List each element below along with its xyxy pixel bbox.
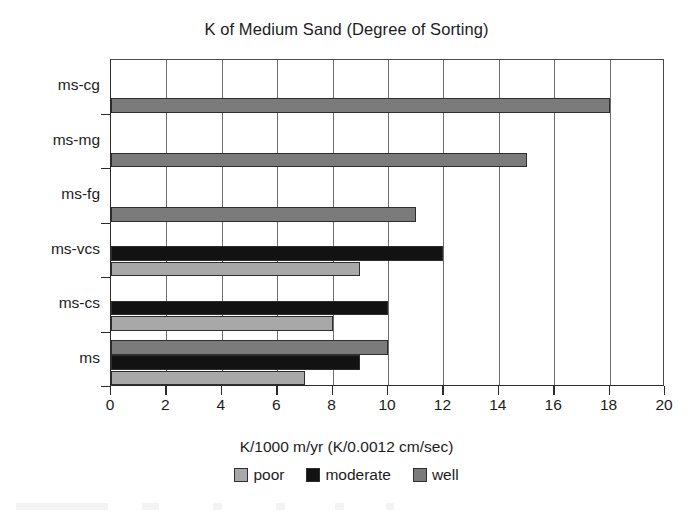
- x-tick-20: [664, 386, 665, 395]
- x-tick-16: [553, 386, 554, 395]
- gridline-18: [610, 60, 611, 385]
- y-tick-5: [101, 332, 110, 333]
- x-axis-label-14: 14: [489, 396, 506, 414]
- x-axis-label-20: 20: [655, 396, 672, 414]
- x-axis-title: K/1000 m/yr (K/0.0012 cm/sec): [0, 438, 693, 456]
- bar-ms-well: [111, 340, 388, 355]
- y-tick-6: [101, 386, 110, 387]
- scan-artifact: [16, 503, 436, 510]
- x-axis-label-16: 16: [545, 396, 562, 414]
- x-tick-8: [332, 386, 333, 395]
- x-tick-12: [442, 386, 443, 395]
- bar-ms-moderate: [111, 355, 360, 370]
- x-axis-label-0: 0: [106, 396, 115, 414]
- x-axis-label-6: 6: [272, 396, 281, 414]
- y-tick-3: [101, 223, 110, 224]
- bar-ms-mg-well: [111, 153, 527, 168]
- chart-title: K of Medium Sand (Degree of Sorting): [0, 20, 693, 39]
- legend-entry-moderate[interactable]: moderate: [306, 466, 390, 484]
- x-tick-10: [387, 386, 388, 395]
- x-axis-label-4: 4: [216, 396, 225, 414]
- x-tick-14: [498, 386, 499, 395]
- legend-label-poor: poor: [253, 466, 284, 484]
- x-tick-4: [221, 386, 222, 395]
- bar-ms-poor: [111, 371, 305, 386]
- y-tick-4: [101, 277, 110, 278]
- y-axis-label-ms-mg: ms-mg: [4, 131, 100, 149]
- bar-ms-vcs-moderate: [111, 246, 443, 261]
- x-tick-18: [609, 386, 610, 395]
- bar-ms-fg-well: [111, 207, 416, 222]
- bar-ms-cs-moderate: [111, 301, 388, 316]
- chart-legend: poormoderatewell: [0, 466, 693, 484]
- y-axis-label-ms-fg: ms-fg: [4, 185, 100, 203]
- bar-ms-cg-well: [111, 98, 610, 113]
- y-tick-1: [101, 114, 110, 115]
- y-axis-label-ms-cg: ms-cg: [4, 76, 100, 94]
- legend-swatch-poor: [234, 468, 248, 482]
- legend-entry-poor[interactable]: poor: [234, 466, 284, 484]
- y-axis-label-ms: ms: [4, 349, 100, 367]
- legend-swatch-well: [413, 468, 427, 482]
- legend-label-moderate: moderate: [325, 466, 390, 484]
- y-tick-2: [101, 168, 110, 169]
- plot-area: [110, 59, 664, 386]
- x-axis-label-2: 2: [161, 396, 170, 414]
- y-axis-label-ms-cs: ms-cs: [4, 294, 100, 312]
- legend-label-well: well: [432, 466, 459, 484]
- legend-entry-well[interactable]: well: [413, 466, 459, 484]
- legend-swatch-moderate: [306, 468, 320, 482]
- x-tick-6: [276, 386, 277, 395]
- bar-ms-vcs-poor: [111, 262, 360, 277]
- x-axis-label-12: 12: [434, 396, 451, 414]
- chart-figure: K of Medium Sand (Degree of Sorting) ms-…: [0, 0, 693, 515]
- x-tick-2: [165, 386, 166, 395]
- y-axis-label-ms-vcs: ms-vcs: [4, 240, 100, 258]
- bar-ms-cs-poor: [111, 316, 333, 331]
- x-axis-label-10: 10: [378, 396, 395, 414]
- x-axis-label-18: 18: [600, 396, 617, 414]
- x-tick-0: [110, 386, 111, 395]
- x-axis-label-8: 8: [327, 396, 336, 414]
